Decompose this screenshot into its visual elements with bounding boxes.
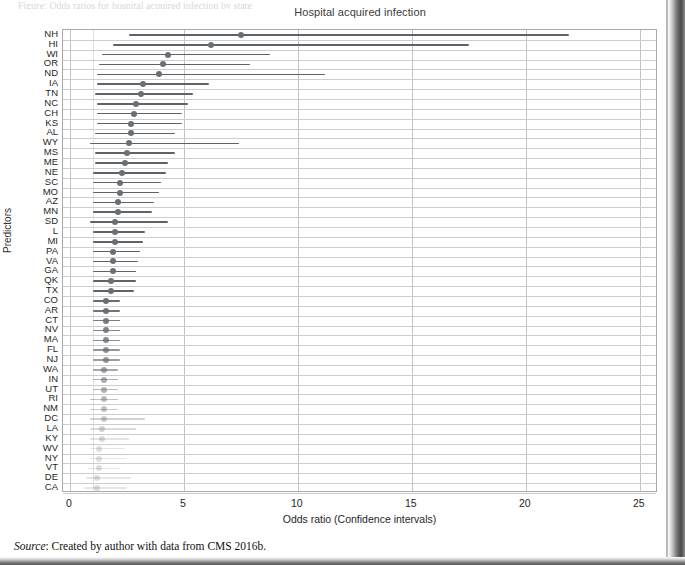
forest-row	[63, 60, 656, 70]
forest-row	[63, 266, 656, 276]
source-text: : Created by author with data from CMS 2…	[46, 540, 267, 552]
odds-ratio-point	[101, 396, 107, 402]
page-right-edge	[668, 0, 685, 565]
forest-plot-area	[62, 29, 657, 492]
forest-row	[63, 257, 656, 267]
odds-ratio-point	[103, 337, 109, 343]
forest-row	[63, 483, 656, 493]
odds-ratio-point	[119, 170, 125, 176]
forest-row	[63, 99, 656, 109]
odds-ratio-point	[101, 416, 107, 422]
confidence-interval-bar	[93, 231, 145, 233]
odds-ratio-point	[101, 367, 107, 373]
y-axis-tick-labels: NHHIWIORNDIATNNCCHKSALWYMSMENESCMOAZMNSD…	[0, 29, 58, 492]
forest-row	[63, 40, 656, 50]
confidence-interval-bar	[93, 182, 161, 184]
forest-row	[63, 326, 656, 336]
odds-ratio-point	[110, 258, 116, 264]
forest-row	[63, 247, 656, 257]
y-axis-label: CA	[45, 482, 58, 492]
odds-ratio-point	[94, 475, 100, 481]
y-gridline	[63, 493, 656, 494]
confidence-interval-bar	[97, 113, 181, 115]
confidence-interval-bar	[102, 54, 271, 56]
confidence-interval-bar	[95, 152, 175, 154]
confidence-interval-bar	[95, 93, 193, 95]
x-axis-tick-label: 10	[291, 497, 303, 509]
confidence-interval-bar	[90, 418, 145, 420]
confidence-interval-bar	[90, 438, 129, 440]
forest-row	[63, 168, 656, 178]
forest-row	[63, 424, 656, 434]
odds-ratio-point	[128, 130, 134, 136]
source-note: Source: Created by author with data from…	[14, 540, 266, 552]
forest-row	[63, 335, 656, 345]
confidence-interval-bar	[90, 221, 168, 223]
odds-ratio-point	[112, 229, 118, 235]
odds-ratio-point	[96, 465, 102, 471]
confidence-interval-bar	[93, 211, 152, 213]
forest-row	[63, 227, 656, 237]
odds-ratio-point	[112, 219, 118, 225]
confidence-interval-bar	[97, 74, 325, 76]
x-axis-tick-label: 5	[180, 497, 186, 509]
odds-ratio-point	[101, 406, 107, 412]
forest-row	[63, 129, 656, 139]
x-axis-tick-label: 15	[405, 497, 417, 509]
confidence-interval-bar	[90, 428, 136, 430]
odds-ratio-point	[117, 190, 123, 196]
confidence-interval-bar	[113, 44, 469, 46]
odds-ratio-point	[99, 426, 105, 432]
odds-ratio-point	[126, 140, 132, 146]
forest-row	[63, 109, 656, 119]
x-axis-tick-label: 0	[66, 497, 72, 509]
forest-row	[63, 79, 656, 89]
odds-ratio-point	[138, 91, 144, 97]
odds-ratio-point	[133, 101, 139, 107]
confidence-interval-bar	[86, 477, 132, 479]
odds-ratio-point	[115, 199, 121, 205]
odds-ratio-point	[165, 52, 171, 58]
confidence-interval-bar	[93, 192, 159, 194]
forest-row	[63, 434, 656, 444]
odds-ratio-point	[103, 318, 109, 324]
forest-row	[63, 306, 656, 316]
confidence-interval-bar	[90, 448, 124, 450]
odds-ratio-point	[124, 150, 130, 156]
forest-row	[63, 178, 656, 188]
forest-row	[63, 404, 656, 414]
odds-ratio-point	[122, 160, 128, 166]
odds-ratio-point	[103, 327, 109, 333]
odds-ratio-point	[117, 180, 123, 186]
x-axis-title: Odds ratio (Confidence intervals)	[62, 513, 657, 525]
forest-row	[63, 345, 656, 355]
odds-ratio-point	[208, 42, 214, 48]
forest-row	[63, 50, 656, 60]
forest-row	[63, 286, 656, 296]
forest-row	[63, 197, 656, 207]
forest-row	[63, 237, 656, 247]
confidence-interval-bar	[93, 172, 166, 174]
forest-row	[63, 188, 656, 198]
forest-row	[63, 296, 656, 306]
confidence-interval-bar	[95, 162, 168, 164]
odds-ratio-point	[112, 239, 118, 245]
odds-ratio-point	[99, 436, 105, 442]
forest-row	[63, 89, 656, 99]
confidence-interval-bar	[129, 34, 569, 36]
forest-row	[63, 158, 656, 168]
odds-ratio-point	[101, 377, 107, 383]
odds-ratio-point	[160, 61, 166, 67]
odds-ratio-point	[140, 81, 146, 87]
forest-row	[63, 138, 656, 148]
odds-ratio-point	[96, 446, 102, 452]
odds-ratio-point	[103, 357, 109, 363]
page-bottom-edge	[0, 557, 685, 565]
odds-ratio-point	[110, 268, 116, 274]
forest-row	[63, 355, 656, 365]
forest-row	[63, 375, 656, 385]
confidence-interval-bar	[93, 251, 141, 253]
confidence-interval-bar	[99, 64, 249, 66]
confidence-interval-bar	[97, 123, 181, 125]
chart-title: Hospital acquired infection	[62, 6, 658, 18]
